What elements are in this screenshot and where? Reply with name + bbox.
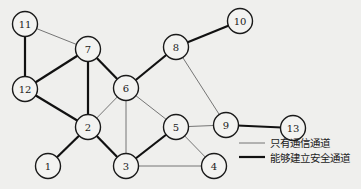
- edges-layer: [25, 21, 293, 166]
- node-label: 8: [173, 42, 179, 53]
- node-label: 7: [85, 44, 91, 55]
- node-label: 2: [85, 122, 91, 133]
- node-label: 6: [123, 83, 129, 94]
- legend: 只有通信通道 能够建立安全通道: [239, 137, 351, 164]
- node-3: 3: [114, 154, 139, 179]
- edge-8-9: [176, 47, 226, 125]
- node-8: 8: [164, 35, 189, 60]
- node-label: 10: [234, 16, 247, 27]
- node-10: 10: [228, 9, 253, 34]
- node-11: 11: [13, 12, 38, 37]
- legend-comm-label: 只有通信通道: [270, 137, 331, 149]
- node-label: 3: [123, 161, 129, 172]
- node-label: 4: [211, 161, 217, 172]
- node-label: 12: [19, 84, 32, 95]
- node-7: 7: [76, 37, 101, 62]
- node-12: 12: [13, 77, 38, 102]
- node-9: 9: [214, 113, 239, 138]
- node-label: 5: [173, 122, 179, 133]
- node-label: 11: [19, 19, 32, 30]
- node-5: 5: [164, 115, 189, 140]
- network-diagram: 12345678910111213 只有通信通道 能够建立安全通道: [0, 0, 361, 189]
- node-label: 13: [287, 123, 300, 134]
- node-6: 6: [114, 76, 139, 101]
- node-label: 9: [223, 120, 229, 131]
- node-4: 4: [202, 154, 227, 179]
- nodes-layer: 12345678910111213: [13, 9, 306, 179]
- node-1: 1: [36, 154, 61, 179]
- node-2: 2: [76, 115, 101, 140]
- legend-secure-label: 能够建立安全通道: [270, 152, 351, 164]
- node-label: 1: [45, 161, 51, 172]
